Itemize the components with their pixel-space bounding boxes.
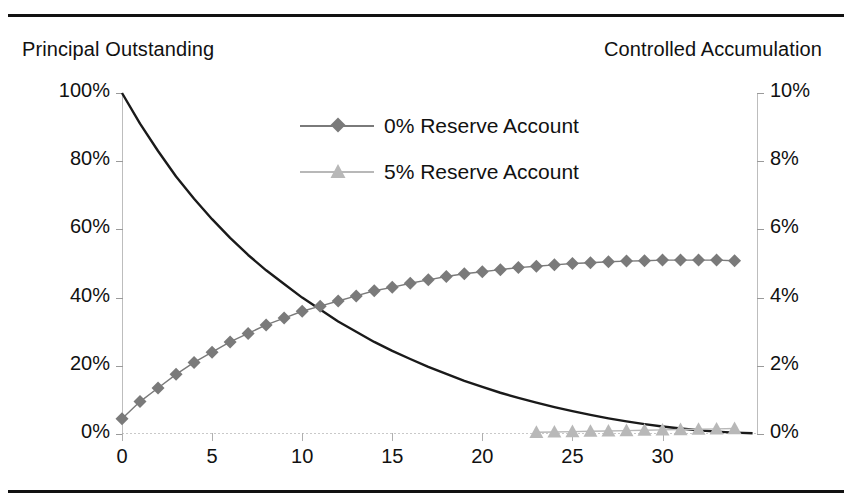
y-tick-right [757,229,764,230]
legend-sample-triangle [300,161,374,183]
x-tick [302,433,303,441]
y-tick-label-left: 0% [10,420,110,443]
y-tick-label-right: 2% [770,352,852,375]
y-tick-right [757,161,764,162]
x-tick-label: 10 [272,445,332,468]
diamond-marker-icon [152,381,165,394]
triangle-marker-icon [330,163,346,179]
diamond-marker-icon [674,254,687,267]
diamond-marker-icon [512,261,525,274]
y-tick-label-right: 6% [770,215,852,238]
y-tick-label-left: 20% [10,352,110,375]
y-tick-label-left: 40% [10,284,110,307]
diamond-marker-icon [440,270,453,283]
diamond-marker-icon [404,277,417,290]
diamond-marker-icon [530,260,543,273]
x-tick [482,433,483,441]
y-tick-right [757,366,764,367]
x-tick-label: 0 [92,445,152,468]
diamond-marker-icon [242,327,255,340]
diamond-marker-icon [206,346,219,359]
diamond-marker-icon [494,263,507,276]
diamond-marker-icon [296,305,309,318]
diamond-marker-icon [566,257,579,270]
y-tick-right [757,298,764,299]
diamond-marker-icon [386,281,399,294]
diamond-marker-icon [602,255,615,268]
y-tick-label-left: 60% [10,215,110,238]
diamond-marker-icon [170,368,183,381]
x-tick-label: 25 [542,445,602,468]
diamond-marker-icon [728,254,741,267]
y-tick-right [757,434,764,435]
x-tick-label: 5 [182,445,242,468]
legend-sample-diamond [300,115,374,137]
diamond-marker-icon [332,295,345,308]
chart-legend: 0% Reserve Account 5% Reserve Account [300,103,630,195]
x-tick [392,433,393,441]
series-2 [529,422,741,438]
diamond-marker-icon [278,312,291,325]
y-tick-label-right: 8% [770,147,852,170]
triangle-marker-icon [728,422,742,435]
diamond-marker-icon [314,300,327,313]
legend-label-0: 0% Reserve Account [374,114,579,138]
y-tick-label-right: 4% [770,284,852,307]
legend-item-0-reserve: 0% Reserve Account [300,103,630,149]
y-tick-label-right: 0% [770,420,852,443]
right-axis-caption: Controlled Accumulation [604,38,822,61]
x-tick [212,433,213,441]
diamond-marker-icon [656,254,669,267]
diamond-marker-icon [368,284,381,297]
diamond-marker-icon [692,254,705,267]
diamond-marker-icon [458,267,471,280]
diamond-marker-icon [260,318,273,331]
y-tick-right [757,93,764,94]
top-divider-rule [8,14,844,17]
legend-item-5-reserve: 5% Reserve Account [300,149,630,195]
diamond-marker-icon [188,356,201,369]
bottom-divider-rule [8,490,844,493]
y-tick-label-right: 10% [770,79,852,102]
left-axis-caption: Principal Outstanding [22,38,214,61]
diamond-marker-icon [350,289,363,302]
diamond-marker-icon [584,256,597,269]
diamond-marker-icon [548,258,561,271]
diamond-marker-icon [638,254,651,267]
x-tick [122,433,123,441]
legend-label-1: 5% Reserve Account [374,160,579,184]
diamond-marker-icon [224,335,237,348]
y-tick-label-left: 100% [10,79,110,102]
y-tick-label-left: 80% [10,147,110,170]
diamond-marker-icon [330,117,346,133]
diamond-marker-icon [422,273,435,286]
x-tick-label: 20 [452,445,512,468]
series-1 [116,254,742,426]
diamond-marker-icon [620,255,633,268]
x-tick-label: 15 [362,445,422,468]
chart-figure: Principal Outstanding Controlled Accumul… [0,0,852,504]
x-tick-label: 30 [633,445,693,468]
diamond-marker-icon [710,254,723,267]
diamond-marker-icon [476,265,489,278]
